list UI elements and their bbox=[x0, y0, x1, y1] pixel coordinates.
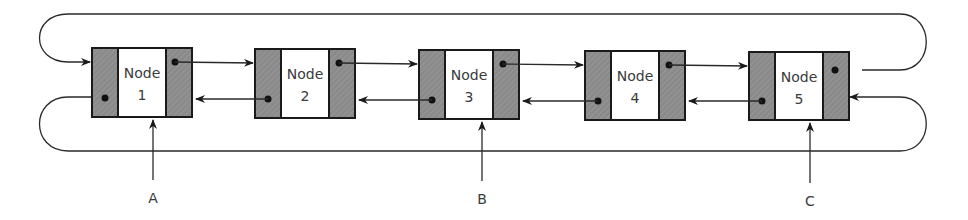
node-5: Node 5 bbox=[749, 52, 849, 120]
external-pointer-b: B bbox=[477, 122, 487, 207]
node-title: Node bbox=[451, 67, 488, 83]
node-number: 4 bbox=[631, 90, 640, 106]
node-number: 2 bbox=[301, 88, 310, 104]
node-3: Node 3 bbox=[419, 50, 519, 119]
external-pointer-a: A bbox=[148, 120, 158, 206]
pointer-label-a: A bbox=[148, 190, 158, 206]
linked-list-diagram: Node 1 Node 2 Node 3 Node 4 Node 5 bbox=[0, 0, 968, 220]
node-number: 3 bbox=[465, 89, 474, 105]
next-pointer-field bbox=[493, 50, 519, 119]
node-title: Node bbox=[781, 69, 818, 85]
node-1: Node 1 bbox=[92, 48, 192, 117]
node-4: Node 4 bbox=[585, 51, 685, 120]
external-pointer-c: C bbox=[805, 123, 815, 209]
next-pointer-field bbox=[823, 52, 849, 120]
node-number: 1 bbox=[138, 87, 147, 103]
prev-pointer-field bbox=[585, 51, 611, 120]
next-pointer-field bbox=[659, 51, 685, 120]
node-title: Node bbox=[124, 65, 161, 81]
node-title: Node bbox=[617, 68, 654, 84]
prev-pointer-field bbox=[92, 48, 118, 117]
pointer-label-c: C bbox=[805, 193, 815, 209]
node-title: Node bbox=[287, 66, 324, 82]
prev-pointer-field bbox=[419, 50, 445, 119]
next-pointer-field bbox=[166, 48, 192, 117]
node-number: 5 bbox=[795, 91, 804, 107]
node-2: Node 2 bbox=[255, 49, 355, 118]
prev-pointer-field bbox=[749, 52, 775, 120]
pointer-label-b: B bbox=[477, 191, 487, 207]
next-pointer-field bbox=[329, 49, 355, 118]
prev-pointer-field bbox=[255, 49, 281, 118]
